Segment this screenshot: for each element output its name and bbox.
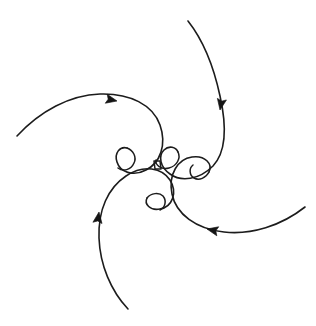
figure-root	[0, 0, 316, 326]
canvas-background	[0, 0, 316, 326]
phase-portrait-diagram	[0, 0, 316, 326]
